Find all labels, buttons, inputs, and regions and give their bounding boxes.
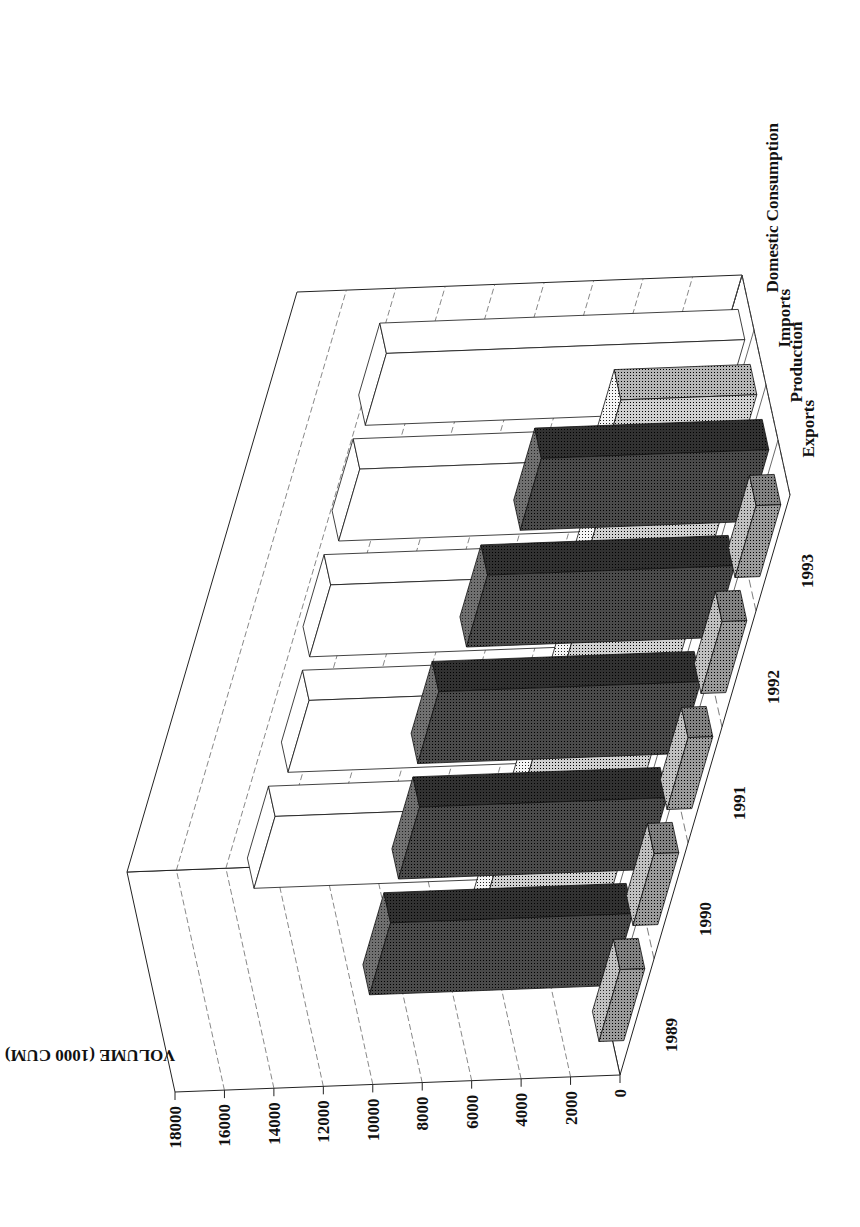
plot-area bbox=[127, 275, 790, 1092]
y-tick-label: 2000 bbox=[562, 1091, 581, 1125]
x-category-label: 1989 bbox=[662, 1018, 681, 1052]
series-label: Imports bbox=[775, 289, 794, 348]
x-category-label: 1993 bbox=[798, 554, 817, 588]
x-category-label: 1992 bbox=[764, 670, 783, 704]
bar-production-1990 bbox=[392, 767, 667, 879]
x-category-label: 1991 bbox=[730, 786, 749, 820]
y-tick-label: 6000 bbox=[463, 1095, 482, 1129]
bar-production-1993 bbox=[514, 419, 769, 530]
bar-chart-3d: 0200040006000800010000120001400016000180… bbox=[0, 0, 860, 1227]
y-tick-label: 14000 bbox=[265, 1102, 284, 1145]
y-tick-label: 0 bbox=[611, 1089, 630, 1098]
y-tick-label: 16000 bbox=[215, 1104, 234, 1147]
bar-production-1991 bbox=[411, 651, 701, 763]
y-tick-label: 10000 bbox=[364, 1098, 383, 1141]
bar-production-1989 bbox=[363, 883, 633, 994]
y-tick-label: 12000 bbox=[314, 1100, 333, 1143]
series-label: Domestic Consumption bbox=[763, 122, 782, 292]
y-tick-label: 18000 bbox=[166, 1106, 185, 1149]
y-tick-label: 8000 bbox=[413, 1097, 432, 1131]
y-axis-label: VOLUME (1000 CUM) bbox=[5, 1046, 176, 1065]
series-label: Exports bbox=[799, 400, 818, 458]
bar-production-1992 bbox=[460, 535, 735, 647]
y-tick-label: 4000 bbox=[512, 1093, 531, 1127]
x-category-label: 1990 bbox=[696, 902, 715, 936]
